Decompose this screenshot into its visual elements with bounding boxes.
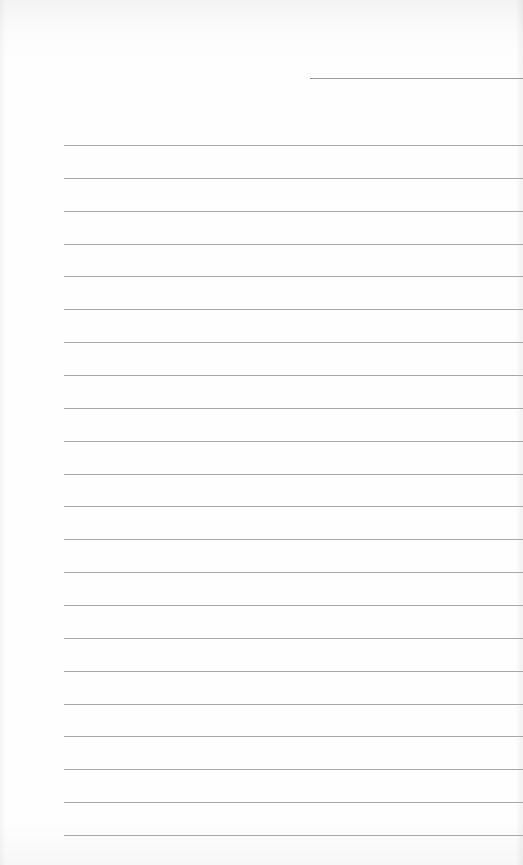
paper-left-shadow <box>0 0 6 865</box>
ruled-line <box>64 408 523 409</box>
ruled-line <box>64 474 523 475</box>
ruled-line <box>64 605 523 606</box>
ruled-line <box>64 145 523 146</box>
ruled-line <box>64 769 523 770</box>
ruled-line <box>64 441 523 442</box>
ruled-line <box>64 539 523 540</box>
ruled-line <box>64 244 523 245</box>
ruled-line <box>64 276 523 277</box>
ruled-line <box>64 802 523 803</box>
date-header-line <box>310 78 523 79</box>
ruled-line <box>64 211 523 212</box>
ruled-line <box>64 506 523 507</box>
ruled-line <box>64 704 523 705</box>
lined-paper-sheet <box>0 0 523 865</box>
ruled-line <box>64 572 523 573</box>
ruled-line <box>64 375 523 376</box>
ruled-line <box>64 835 523 836</box>
ruled-line <box>64 309 523 310</box>
ruled-line <box>64 342 523 343</box>
ruled-line <box>64 178 523 179</box>
ruled-line <box>64 671 523 672</box>
ruled-line <box>64 638 523 639</box>
ruled-line <box>64 736 523 737</box>
